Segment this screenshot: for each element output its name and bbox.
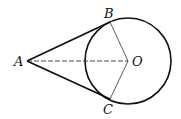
tangent-ac (27, 61, 110, 99)
radius-oc (110, 61, 128, 99)
geometry-diagram: A B C O (0, 0, 181, 119)
tangent-ab (27, 22, 110, 61)
label-a: A (13, 54, 23, 69)
radius-ob (110, 22, 128, 61)
label-o: O (132, 54, 143, 69)
label-b: B (103, 6, 114, 21)
label-c: C (103, 102, 113, 117)
